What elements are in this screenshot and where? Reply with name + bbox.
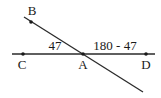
point-b-label: B: [28, 3, 37, 18]
angle-cab-label: 47: [49, 38, 63, 53]
point-d-label: D: [141, 57, 150, 72]
point-c-dot: [21, 52, 25, 56]
point-c-label: C: [18, 57, 27, 72]
angle-bad-label: 180 - 47: [93, 38, 137, 53]
angle-diagram: B C A D 47 180 - 47: [0, 0, 161, 98]
point-d-dot: [144, 52, 148, 56]
point-b-dot: [29, 20, 33, 24]
point-a-label: A: [78, 57, 88, 72]
point-a-dot: [81, 52, 85, 56]
